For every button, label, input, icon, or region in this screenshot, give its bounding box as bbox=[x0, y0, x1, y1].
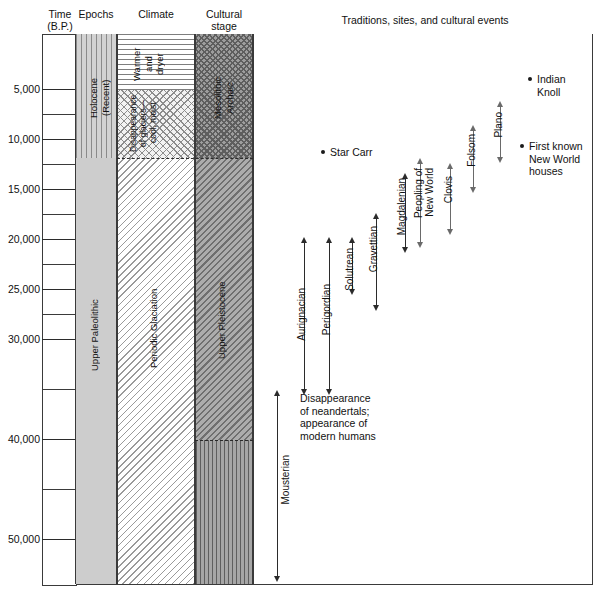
site-star-carr-label: Star Carr bbox=[330, 146, 373, 158]
header-epochs: Epochs bbox=[68, 8, 124, 20]
axis-tick-7500 bbox=[42, 114, 75, 115]
axis-tick-5000 bbox=[42, 89, 75, 90]
axis-tick-50000 bbox=[42, 539, 75, 540]
note-neandertals: Disappearance of neandertals; appearance… bbox=[300, 392, 420, 442]
note-neandertals-line2: of neandertals; bbox=[300, 405, 420, 418]
chart-bottom-rule bbox=[42, 584, 593, 585]
range-label-mousterian: Mousterian bbox=[280, 455, 292, 504]
range-label-perigordian: Perigordian bbox=[321, 284, 333, 335]
axis-label-25000: 25,000 bbox=[0, 283, 40, 295]
axis-label-40000: 40,000 bbox=[0, 433, 40, 445]
pleistocene-holocene-boundary bbox=[117, 158, 253, 159]
range-arrow-mousterian bbox=[277, 395, 278, 577]
axis-label-20000: 20,000 bbox=[0, 233, 40, 245]
axis-tick-40000 bbox=[42, 439, 75, 440]
site-indian-knoll-label-line1: Indian bbox=[537, 73, 566, 85]
site-nw-houses-label-line1: First known bbox=[529, 140, 583, 152]
site-star-carr: Star Carr bbox=[321, 146, 373, 159]
axis-tick-22500 bbox=[42, 264, 75, 265]
site-nw-houses-label-line2: New World bbox=[529, 153, 583, 166]
note-neandertals-line4: modern humans bbox=[300, 430, 420, 443]
note-neandertals-line1: Disappearance bbox=[300, 392, 420, 405]
axis-tick-10000 bbox=[42, 139, 75, 140]
cultural-label-archaic: Archaic bbox=[224, 48, 240, 148]
site-first-known-new-world-houses: First known New World houses bbox=[520, 140, 583, 178]
climate-label-cool-moist: cool, moist bbox=[148, 90, 162, 156]
range-label-solutrean: Solutrean bbox=[344, 248, 356, 291]
axis-label-5000: 5,000 bbox=[0, 83, 40, 95]
axis-tick-15000 bbox=[42, 189, 75, 190]
cultural-label-upper-pleistocene: Upper Pleistocene bbox=[216, 240, 232, 400]
header-cultural-line1: Cultural bbox=[188, 8, 260, 20]
site-dot-icon bbox=[528, 77, 532, 81]
climate-label-dryer: dryer bbox=[154, 38, 169, 90]
epoch-label-upper-paleolithic: Upper Paleolithic bbox=[89, 260, 105, 410]
cultural-band-middle-paleolithic bbox=[196, 440, 252, 584]
axis-tick-25000 bbox=[42, 289, 75, 290]
axis-label-10000: 10,000 bbox=[0, 133, 40, 145]
axis-tick-35000 bbox=[42, 389, 75, 390]
range-label-clovis: Clovis bbox=[443, 176, 455, 203]
climate-label-periodic-glaciation: Periodic Glaciation bbox=[148, 248, 164, 408]
site-indian-knoll-label-line2: Knoll bbox=[537, 86, 566, 99]
header-cultural: Cultural stage bbox=[188, 8, 260, 32]
header-events: Traditions, sites, and cultural events bbox=[300, 14, 550, 26]
middle-upper-paleolithic-boundary bbox=[195, 440, 253, 441]
axis-tick-20000 bbox=[42, 239, 75, 240]
axis-tick-45000 bbox=[42, 489, 75, 490]
range-label-gravettian: Gravettian bbox=[368, 226, 380, 272]
site-dot-icon bbox=[520, 144, 524, 148]
site-nw-houses-label-line3: houses bbox=[529, 165, 583, 178]
header-climate: Climate bbox=[118, 8, 194, 20]
header-cultural-line2: stage bbox=[188, 20, 260, 32]
range-label-aurignacian: Aurignacian bbox=[296, 288, 308, 341]
axis-tick-30000 bbox=[42, 339, 75, 340]
range-label-magdalenian: Magdalenian bbox=[396, 178, 408, 235]
axis-label-30000: 30,000 bbox=[0, 333, 40, 345]
site-indian-knoll: Indian Knoll bbox=[528, 73, 566, 98]
axis-label-50000: 50,000 bbox=[0, 533, 40, 545]
range-label-folsom: Folsom bbox=[466, 134, 478, 167]
range-label-plano: Plano bbox=[493, 112, 505, 138]
site-dot-icon bbox=[321, 150, 325, 154]
axis-label-15000: 15,000 bbox=[0, 183, 40, 195]
note-neandertals-line3: appearance of bbox=[300, 417, 420, 430]
range-label-peopling-new-world-line2: New World bbox=[424, 168, 436, 217]
axis-tick-12500 bbox=[42, 164, 75, 165]
header-time-line2: (B.P.) bbox=[32, 20, 88, 32]
axis-tick-17500 bbox=[42, 214, 75, 215]
range-label-peopling-new-world-line1: Peopling of bbox=[413, 168, 425, 218]
epoch-label-holocene-sub: (Recent) bbox=[100, 44, 118, 152]
chronology-chart: Time (B.P.) Epochs Climate Cultural stag… bbox=[0, 0, 597, 597]
time-axis-column bbox=[42, 34, 77, 586]
axis-tick-27500 bbox=[42, 314, 75, 315]
